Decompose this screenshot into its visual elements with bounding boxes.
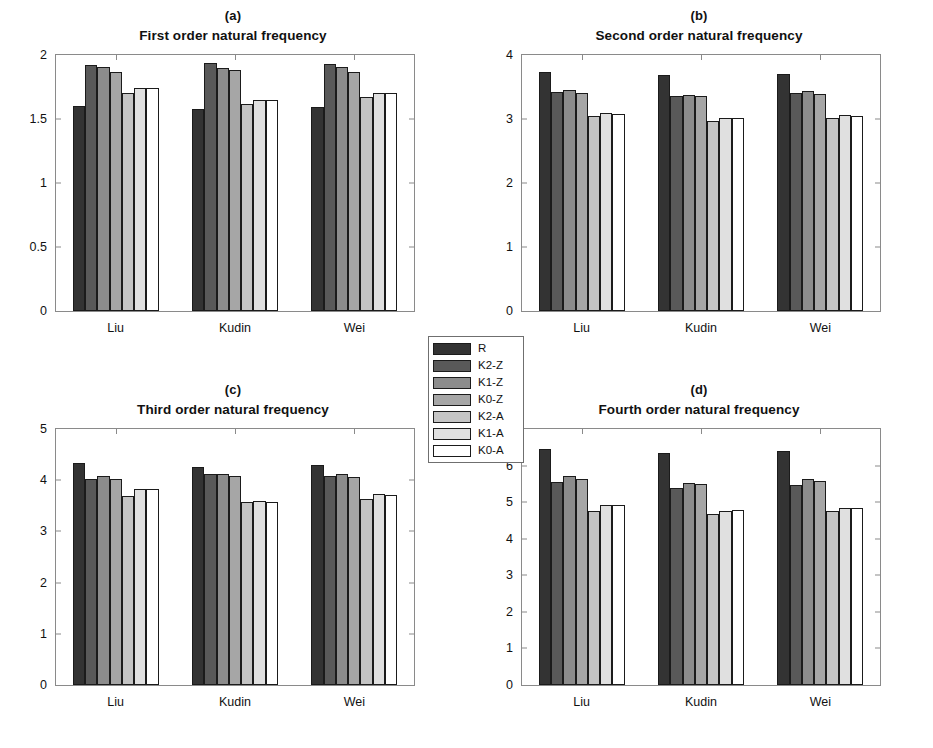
x-axis-tick-mark (354, 429, 355, 434)
y-axis-tick-mark (875, 119, 880, 120)
bar (839, 115, 851, 311)
x-axis-tick-mark (820, 55, 821, 60)
legend-label: K1-A (478, 428, 504, 440)
bar (563, 476, 575, 685)
y-axis-tick-mark (56, 480, 61, 481)
bar (695, 96, 707, 311)
bar (373, 494, 385, 685)
x-axis-tick-mark (820, 429, 821, 434)
bar (612, 114, 624, 311)
legend-swatch-icon (433, 394, 471, 406)
y-axis-tick-mark (522, 611, 527, 612)
x-axis-tick-label: Kudin (219, 321, 251, 335)
legend-label: K1-Z (478, 377, 503, 389)
panel-c-axes: 012345LiuKudinWei (55, 428, 415, 686)
bar (802, 91, 814, 311)
bar (266, 100, 278, 311)
panel-c-letter: (c) (0, 382, 466, 397)
y-axis-tick-mark (522, 247, 527, 248)
x-axis-tick-label: Liu (107, 321, 124, 335)
y-axis-tick-mark (409, 247, 414, 248)
y-axis-tick-mark (409, 183, 414, 184)
panel-a-letter: (a) (0, 8, 466, 23)
bar (253, 501, 265, 685)
bar (707, 514, 719, 685)
bar (732, 510, 744, 685)
panel-b-title: Second order natural frequency (466, 28, 932, 43)
bar (719, 511, 731, 685)
legend-swatch-icon (433, 360, 471, 372)
bar (229, 476, 241, 685)
bar (204, 63, 216, 311)
y-axis-tick-mark (522, 648, 527, 649)
legend-item[interactable]: R (433, 341, 518, 356)
legend-swatch-icon (433, 445, 471, 457)
y-axis-tick-mark (875, 183, 880, 184)
bar (229, 70, 241, 311)
panel-b: (b) Second order natural frequency 01234… (466, 0, 932, 374)
y-axis-tick-mark (522, 183, 527, 184)
bar (658, 453, 670, 685)
x-axis-tick-label: Wei (810, 321, 831, 335)
bar (134, 88, 146, 311)
bar (110, 72, 122, 311)
bar (360, 97, 372, 311)
panel-b-letter: (b) (466, 8, 932, 23)
y-axis-tick-label: 3 (506, 568, 522, 582)
y-axis-tick-label: 2 (40, 48, 56, 62)
bar (146, 489, 158, 685)
bar (266, 502, 278, 685)
bar (97, 67, 109, 311)
x-axis-tick-label: Kudin (685, 321, 717, 335)
y-axis-tick-mark (409, 531, 414, 532)
bar (600, 113, 612, 311)
x-axis-tick-label: Wei (810, 695, 831, 709)
bar (373, 93, 385, 311)
y-axis-tick-label: 0 (40, 678, 56, 692)
legend-item[interactable]: K0-Z (433, 392, 518, 407)
bar (732, 118, 744, 311)
x-axis-tick-mark (701, 55, 702, 60)
legend-item[interactable]: K1-A (433, 426, 518, 441)
legend-swatch-icon (433, 411, 471, 423)
y-axis-tick-mark (875, 502, 880, 503)
y-axis-tick-label: 4 (40, 473, 56, 487)
bar (348, 477, 360, 685)
y-axis-tick-mark (522, 119, 527, 120)
bar (192, 467, 204, 685)
bar (777, 74, 789, 311)
legend-item[interactable]: K0-A (433, 443, 518, 458)
y-axis-tick-label: 0 (506, 678, 522, 692)
legend-item[interactable]: K1-Z (433, 375, 518, 390)
y-axis-tick-mark (56, 183, 61, 184)
x-axis-tick-label: Wei (344, 321, 365, 335)
bar (539, 449, 551, 685)
bar (695, 484, 707, 685)
bar (588, 511, 600, 685)
legend-item[interactable]: K2-Z (433, 358, 518, 373)
bar (217, 68, 229, 311)
legend-item[interactable]: K2-A (433, 409, 518, 424)
bar (683, 483, 695, 685)
legend-label: K0-A (478, 445, 504, 457)
legend-swatch-icon (433, 428, 471, 440)
panel-c: (c) Third order natural frequency 012345… (0, 374, 466, 748)
x-axis-tick-label: Liu (573, 695, 590, 709)
bar (802, 479, 814, 685)
bar (110, 479, 122, 685)
bar (600, 505, 612, 685)
bar (576, 479, 588, 685)
y-axis-tick-label: 3 (40, 524, 56, 538)
legend-swatch-icon (433, 377, 471, 389)
y-axis-tick-mark (875, 575, 880, 576)
y-axis-tick-mark (56, 633, 61, 634)
bar (311, 465, 323, 685)
panel-d-title: Fourth order natural frequency (466, 402, 932, 417)
bar (324, 476, 336, 685)
x-axis-tick-mark (701, 429, 702, 434)
y-axis-tick-mark (522, 575, 527, 576)
bar (658, 75, 670, 311)
panel-c-title: Third order natural frequency (0, 402, 466, 417)
bar (241, 502, 253, 685)
bar (670, 96, 682, 311)
